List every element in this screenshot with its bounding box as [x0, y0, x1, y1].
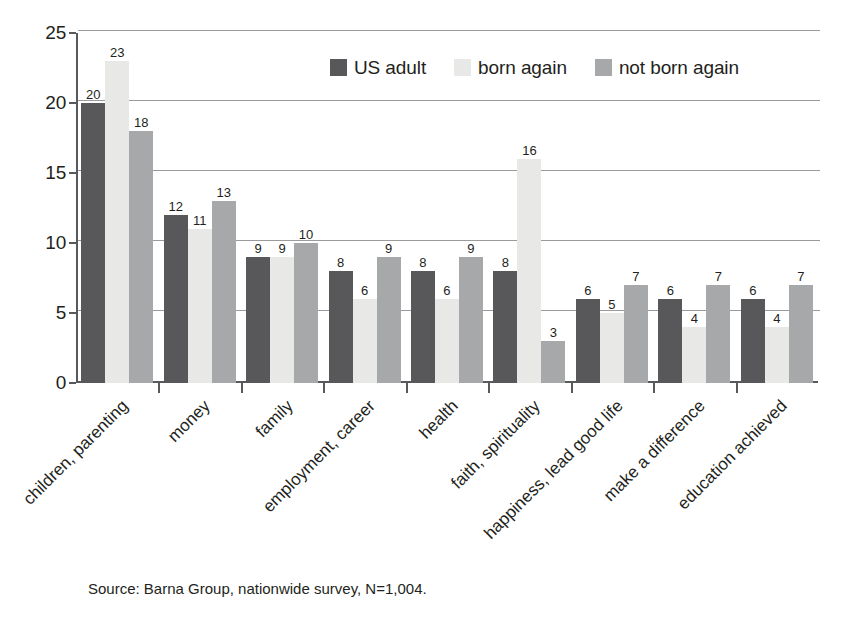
bar-value-label: 5	[608, 298, 615, 311]
bar-value-label: 3	[550, 326, 557, 339]
legend-swatch	[330, 59, 347, 76]
bar-value-label: 9	[254, 242, 261, 255]
bar-value-label: 6	[749, 284, 756, 297]
bar-value-label: 6	[443, 284, 450, 297]
legend-label: US adult	[354, 58, 426, 77]
bar-group: 8163	[488, 33, 570, 383]
y-axis-tick-label: 5	[8, 303, 66, 322]
cropped-title	[0, 0, 845, 4]
bar-group: 121113	[158, 33, 240, 383]
chart-legend: US adultborn againnot born again	[330, 58, 739, 77]
y-axis-tick-label: 25	[8, 23, 66, 42]
bar-value-label: 13	[216, 186, 230, 199]
bar-value-label: 9	[385, 242, 392, 255]
legend-item: US adult	[330, 58, 426, 77]
x-axis-category-label: children, parenting	[20, 397, 131, 508]
x-axis-category-label: happiness, lead good life	[481, 397, 626, 542]
y-axis-tick-label: 20	[8, 93, 66, 112]
bar: 8	[411, 271, 435, 383]
bar: 6	[658, 299, 682, 383]
bar-group: 647	[653, 33, 735, 383]
bar: 6	[435, 299, 459, 383]
legend-label: born again	[478, 58, 567, 77]
bar: 5	[600, 313, 624, 383]
bar: 7	[624, 285, 648, 383]
bar-group: 202318	[76, 33, 158, 383]
y-axis-tick-label: 10	[8, 233, 66, 252]
bar-value-label: 7	[797, 270, 804, 283]
bar-value-label: 11	[193, 214, 207, 227]
y-axis-tick-mark	[69, 102, 76, 104]
bar-value-label: 23	[110, 46, 124, 59]
bar-value-label: 9	[467, 242, 474, 255]
bar: 3	[541, 341, 565, 383]
gridline	[78, 30, 820, 31]
bar-value-label: 9	[278, 242, 285, 255]
bar: 9	[246, 257, 270, 383]
bar: 6	[576, 299, 600, 383]
bar: 4	[765, 327, 789, 383]
bar-group: 657	[571, 33, 653, 383]
y-axis-tick-label: 15	[8, 163, 66, 182]
y-axis-tick-mark	[69, 242, 76, 244]
bar: 9	[459, 257, 483, 383]
x-axis-category-label: health	[416, 397, 461, 442]
bar: 12	[164, 215, 188, 383]
y-axis-tick-mark	[69, 312, 76, 314]
bars-layer: 20231812111399108698698163657647647	[76, 33, 818, 383]
bar-group: 9910	[241, 33, 323, 383]
bar: 4	[682, 327, 706, 383]
bar-group: 869	[406, 33, 488, 383]
bar-value-label: 6	[361, 284, 368, 297]
bar-group: 647	[736, 33, 818, 383]
bar-value-label: 4	[691, 312, 698, 325]
bar: 6	[741, 299, 765, 383]
bar-value-label: 16	[522, 144, 536, 157]
bar: 11	[188, 229, 212, 383]
bar: 8	[329, 271, 353, 383]
x-axis-labels: children, parentingmoneyfamilyemployment…	[0, 383, 845, 563]
bar: 18	[129, 131, 153, 383]
bar-value-label: 4	[773, 312, 780, 325]
legend-swatch	[454, 59, 471, 76]
bar: 23	[105, 61, 129, 383]
legend-item: not born again	[595, 58, 739, 77]
bar-value-label: 8	[502, 256, 509, 269]
legend-item: born again	[454, 58, 567, 77]
bar-value-label: 8	[419, 256, 426, 269]
bar-group: 869	[323, 33, 405, 383]
bar: 7	[789, 285, 813, 383]
bar-value-label: 20	[86, 88, 100, 101]
bar-value-label: 18	[134, 116, 148, 129]
x-axis-category-label: money	[165, 397, 213, 445]
bar: 10	[294, 243, 318, 383]
bar: 7	[706, 285, 730, 383]
legend-swatch	[595, 59, 612, 76]
bar-value-label: 6	[667, 284, 674, 297]
bar: 9	[270, 257, 294, 383]
y-axis-tick-mark	[69, 172, 76, 174]
bar-value-label: 12	[168, 200, 182, 213]
bar-value-label: 7	[632, 270, 639, 283]
x-axis-category-label: faith, spirituality	[448, 397, 543, 492]
bar-chart: 0510152025 20231812111399108698698163657…	[0, 0, 845, 620]
bar: 20	[81, 103, 105, 383]
y-axis-tick-mark	[69, 32, 76, 34]
bar: 13	[212, 201, 236, 383]
bar: 8	[493, 271, 517, 383]
bar-value-label: 7	[715, 270, 722, 283]
x-axis-category-label: family	[252, 397, 295, 440]
bar-value-label: 10	[299, 228, 313, 241]
bar: 16	[517, 159, 541, 383]
source-note: Source: Barna Group, nationwide survey, …	[88, 580, 427, 598]
bar-value-label: 8	[337, 256, 344, 269]
legend-label: not born again	[619, 58, 739, 77]
bar: 9	[377, 257, 401, 383]
bar: 6	[353, 299, 377, 383]
bar-value-label: 6	[584, 284, 591, 297]
